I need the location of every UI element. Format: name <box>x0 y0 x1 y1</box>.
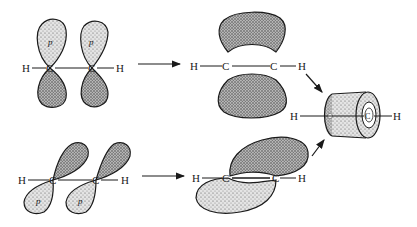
arrow-down-right <box>306 74 322 92</box>
hydrogen-label: H <box>393 110 401 122</box>
hydrogen-label: H <box>121 174 129 186</box>
hydrogen-label: H <box>192 172 200 184</box>
result-cylindrical-pi-cloud: H C H <box>290 92 401 138</box>
pi-cloud-lower <box>218 74 286 118</box>
pi-cloud-lower <box>196 178 276 213</box>
pi-bond-diagram: p p H C C H H C C H H <box>0 0 417 227</box>
carbon-label: C <box>365 112 370 121</box>
p-label: p <box>35 196 41 206</box>
carbon-label: C <box>222 60 229 72</box>
hydrogen-label: H <box>298 60 306 72</box>
hydrogen-label: H <box>18 174 26 186</box>
arrow-up-right <box>312 140 324 156</box>
carbon-label: C <box>88 62 95 74</box>
p-label: p <box>77 196 83 206</box>
hydrogen-label: H <box>116 62 124 74</box>
pi-cloud-upper <box>219 12 285 52</box>
hydrogen-label: H <box>298 172 306 184</box>
carbon-label: C <box>270 60 277 72</box>
hydrogen-label: H <box>190 60 198 72</box>
hydrogen-label: H <box>290 110 298 122</box>
p-orbital-lobe <box>53 143 88 180</box>
p-label: p <box>88 37 94 47</box>
carbon-label: C <box>92 174 99 186</box>
pi-cloud-upper <box>230 137 308 176</box>
carbon-label: C <box>46 62 53 74</box>
hydrogen-label: H <box>22 62 30 74</box>
carbon-label: C <box>49 174 56 186</box>
bottom-left-p-orbitals: p p H C C H <box>18 143 130 214</box>
p-orbital-lobe <box>81 21 108 68</box>
top-middle-pi-bond: H C C H <box>190 12 306 118</box>
carbon-label: C <box>222 172 229 184</box>
top-left-p-orbitals: p p H C C H <box>22 19 124 107</box>
p-label: p <box>47 37 53 47</box>
bottom-middle-pi-bond: H C C H <box>192 137 308 213</box>
carbon-label: C <box>272 172 279 184</box>
